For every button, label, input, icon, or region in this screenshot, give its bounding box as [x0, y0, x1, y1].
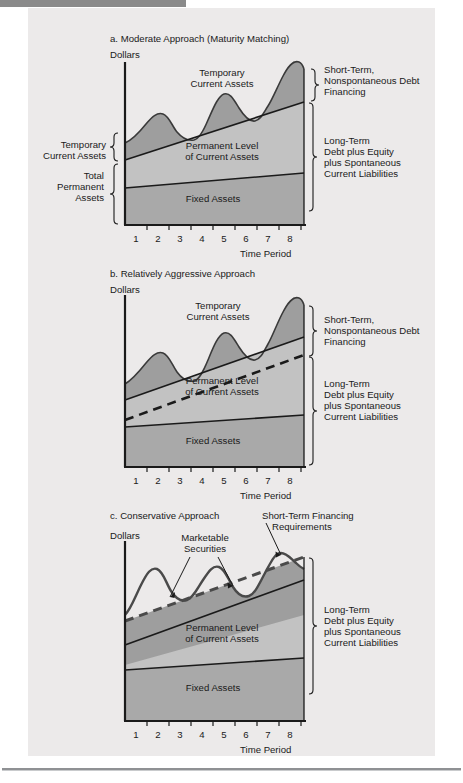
panel-c-right-label-long-line1: Long-Term: [324, 604, 370, 615]
panel-b-temporary-label-line1: Temporary: [195, 300, 241, 311]
panel-a-y-axis-label: Dollars: [110, 49, 140, 60]
panel-a-right-label-short-line3: Financing: [324, 86, 366, 97]
panel-a-left-label-temporary-line2: Current Assets: [43, 150, 106, 161]
panel-c-permanent-label-line2: of Current Assets: [185, 633, 259, 644]
panel-b-right-label-short-line1: Short-Term,: [324, 314, 374, 325]
panel-b-tick-4: 4: [199, 475, 205, 486]
panel-a-tick-8: 8: [287, 233, 292, 244]
panel-b-right-bracket-long-term: [309, 357, 317, 465]
panel-b-temporary-label-line2: Current Assets: [187, 311, 250, 322]
panel-c-right-label-long-line3: plus Spontaneous: [324, 626, 401, 637]
panel-c-right-bracket-long-term: [309, 558, 317, 694]
panel-b-right-label-long-line1: Long-Term: [324, 378, 370, 389]
panel-c-marketable-leader-left: [170, 557, 190, 597]
panel-b-title: b. Relatively Aggressive Approach: [110, 268, 255, 279]
panel-c-tick-1: 1: [133, 729, 138, 740]
panel-c-tick-3: 3: [177, 729, 182, 740]
panel-a-left-label-total-line3: Assets: [75, 192, 104, 203]
panel-a-right-bracket-long-term: [309, 103, 317, 211]
panel-c-tick-8: 8: [287, 729, 292, 740]
panel-b-right-label-short-line3: Financing: [324, 336, 366, 347]
panel-b-y-axis-label: Dollars: [110, 284, 140, 295]
panel-a-tick-labels: 1 2 3 4 5 6 7 8: [133, 233, 292, 244]
panel-c-shortterm-label-line2: Requirements: [272, 521, 332, 532]
panel-b-tick-5: 5: [221, 475, 226, 486]
panel-a-tick-2: 2: [155, 233, 160, 244]
panel-a-right-label-long-line1: Long-Term: [324, 135, 370, 146]
panel-b-permanent-label-line2: of Current Assets: [185, 386, 259, 397]
panel-b-tick-8: 8: [287, 475, 292, 486]
panel-b-x-axis-label: Time Period: [240, 490, 291, 501]
panel-b-tick-7: 7: [265, 475, 270, 486]
panel-a-left-label-total-line1: Total: [84, 170, 104, 181]
panel-c-right-label-long-line2: Debt plus Equity: [324, 615, 394, 626]
panel-a-right-label-long-line2: Debt plus Equity: [324, 146, 394, 157]
panel-a-tick-6: 6: [243, 233, 248, 244]
panel-a-tick-1: 1: [133, 233, 138, 244]
panel-c-x-axis-label: Time Period: [240, 744, 291, 755]
panel-a-permanent-label-line2: of Current Assets: [185, 151, 259, 162]
panel-c-permanent-label-line1: Permanent Level: [186, 622, 259, 633]
panel-b-right-label-long-line4: Current Liabilities: [324, 411, 398, 422]
panel-c-marketable-label-line2: Securities: [184, 543, 226, 554]
panel-b-tick-2: 2: [155, 475, 160, 486]
panel-b-fixed-label: Fixed Assets: [186, 435, 241, 446]
panel-c-tick-2: 2: [155, 729, 160, 740]
panel-b: b. Relatively Aggressive Approach 1 2 3 …: [0, 262, 463, 510]
panel-a-right-label-long-line4: Current Liabilities: [324, 168, 398, 179]
panel-a-right-label-long-line3: plus Spontaneous: [324, 157, 401, 168]
panel-a-tick-3: 3: [177, 233, 182, 244]
panel-a-tick-7: 7: [265, 233, 270, 244]
panel-b-right-label-long-line3: plus Spontaneous: [324, 400, 401, 411]
panel-a-left-label-total-line2: Permanent: [57, 181, 104, 192]
panel-a-permanent-label-line1: Permanent Level: [186, 140, 259, 151]
panel-a-tick-5: 5: [221, 233, 226, 244]
panel-c-tick-4: 4: [199, 729, 205, 740]
panel-a-fixed-label: Fixed Assets: [186, 193, 241, 204]
panel-c-shortterm-label-line1: Short-Term Financing: [262, 510, 354, 521]
panel-a-temporary-label-line1: Temporary: [199, 67, 245, 78]
panel-b-right-label-short-line2: Nonspontaneous Debt: [324, 325, 420, 336]
panel-c-right-label-long-line4: Current Liabilities: [324, 637, 398, 648]
panel-c-y-axis-label: Dollars: [110, 530, 140, 541]
panel-a-right-bracket-short-term: [311, 69, 319, 101]
panel-a-left-bracket-total-permanent: [110, 164, 118, 224]
panel-b-permanent-label-line1: Permanent Level: [186, 375, 259, 386]
panel-a-title: a. Moderate Approach (Maturity Matching): [110, 33, 289, 44]
panel-c-fixed-label: Fixed Assets: [186, 682, 241, 693]
panel-c-title: c. Conservative Approach: [110, 510, 219, 521]
panel-b-tick-1: 1: [133, 475, 138, 486]
panel-a-right-label-short-line2: Nonspontaneous Debt: [324, 75, 420, 86]
panel-b-tick-labels: 1 2 3 4 5 6 7 8: [133, 475, 292, 486]
top-band: [0, 0, 186, 7]
panel-c-tick-6: 6: [243, 729, 248, 740]
panel-c-tick-labels: 1 2 3 4 5 6 7 8: [133, 729, 292, 740]
panel-c: c. Conservative Approach Short-Term Fina…: [0, 505, 463, 765]
panel-a-tick-4: 4: [199, 233, 205, 244]
panel-c-marketable-leader-right: [218, 557, 233, 586]
panel-a-right-label-short-line1: Short-Term,: [324, 64, 374, 75]
panel-a-x-axis-label: Time Period: [240, 248, 291, 259]
panel-b-tick-6: 6: [243, 475, 248, 486]
panel-b-right-bracket-short-term: [309, 306, 317, 356]
panel-b-tick-3: 3: [177, 475, 182, 486]
panel-a: a. Moderate Approach (Maturity Matching)…: [0, 14, 463, 262]
bottom-rule-highlight: [2, 770, 461, 771]
panel-c-marketable-label-line1: Marketable: [181, 532, 228, 543]
panel-a-left-label-temporary-line1: Temporary: [61, 139, 107, 150]
panel-a-left-bracket-temporary: [110, 133, 118, 161]
panel-c-tick-5: 5: [221, 729, 226, 740]
panel-a-temporary-label-line2: Current Assets: [191, 78, 254, 89]
panel-c-tick-7: 7: [265, 729, 270, 740]
panel-b-right-label-long-line2: Debt plus Equity: [324, 389, 394, 400]
